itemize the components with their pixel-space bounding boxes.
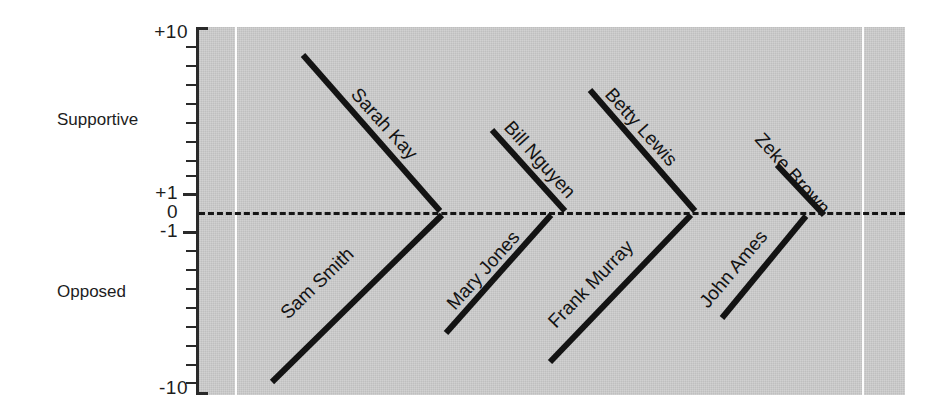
zero-reference-line bbox=[199, 212, 905, 215]
y-axis-tick bbox=[186, 382, 197, 384]
y-axis-tick bbox=[186, 141, 197, 143]
y-axis-tick bbox=[186, 84, 197, 86]
axis-label-minus-one: -1 bbox=[110, 220, 178, 242]
gridline-left bbox=[235, 27, 237, 395]
axis-label-minus-ten: -10 bbox=[110, 377, 188, 399]
y-axis-tick bbox=[186, 103, 197, 105]
y-axis-tick bbox=[183, 193, 197, 196]
axis-top-cap bbox=[196, 27, 208, 30]
gridline-right bbox=[862, 27, 864, 395]
y-axis-tick bbox=[186, 250, 197, 252]
chart-root: +10 +1 0 -1 -10 Supportive Opposed Sarah… bbox=[0, 0, 946, 420]
y-axis-tick bbox=[183, 231, 197, 234]
y-axis-tick bbox=[186, 364, 197, 366]
y-axis-tick bbox=[186, 307, 197, 309]
y-axis-tick bbox=[186, 345, 197, 347]
y-axis-tick bbox=[186, 269, 197, 271]
axis-label-opposed: Opposed bbox=[57, 282, 126, 302]
y-axis-tick bbox=[186, 175, 197, 177]
axis-label-plus-ten: +10 bbox=[110, 21, 188, 43]
y-axis-tick bbox=[186, 122, 197, 124]
plot-area bbox=[199, 27, 905, 395]
y-axis-tick bbox=[186, 326, 197, 328]
y-axis-tick bbox=[186, 160, 197, 162]
axis-label-supportive: Supportive bbox=[57, 110, 138, 130]
y-axis-tick bbox=[186, 288, 197, 290]
y-axis-tick bbox=[186, 65, 197, 67]
y-axis-spine bbox=[196, 27, 199, 395]
y-axis-tick bbox=[186, 46, 197, 48]
axis-bottom-cap bbox=[196, 392, 208, 395]
